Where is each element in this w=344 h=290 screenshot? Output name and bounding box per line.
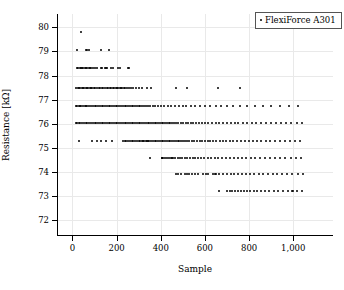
x-axis-tick [161,236,162,241]
y-axis-tick-label: 75 [38,143,49,153]
legend-label: FlexiForce A301 [265,15,336,25]
x-axis-tick [72,236,73,241]
x-axis-label: Sample [178,264,212,274]
plot-area: 727374757677787980 02004006008001,000 [57,14,333,236]
y-axis-tick-label: 77 [38,95,49,105]
y-axis-tick-label: 79 [38,46,49,56]
x-axis-tick-label: 400 [153,243,169,253]
x-axis-tick-label: 200 [108,243,124,253]
x-axis-tick [117,236,118,241]
y-axis-tick-label: 72 [38,215,49,225]
y-axis-tick [52,220,57,221]
legend-marker-icon [260,19,262,21]
x-axis-tick-label: 800 [241,243,257,253]
y-axis-tick [52,148,57,149]
y-axis-tick-label: 80 [38,22,49,32]
y-axis-tick-label: 78 [38,71,49,81]
y-axis-tick-label: 74 [38,167,49,177]
legend: FlexiForce A301 [255,12,342,29]
y-axis-tick [52,100,57,101]
y-axis-tick [52,27,57,28]
plot-frame [57,14,333,236]
y-axis-tick [52,124,57,125]
y-axis-tick-label: 73 [38,191,49,201]
y-axis-tick [52,76,57,77]
x-axis-tick-label: 0 [70,243,75,253]
y-axis-label: Resistance [kΩ] [1,89,11,161]
y-axis-tick [52,172,57,173]
y-axis-tick [52,196,57,197]
x-axis-tick-label: 1,000 [281,243,305,253]
x-axis-tick [249,236,250,241]
y-axis-tick-label: 76 [38,119,49,129]
scatter-chart-figure: 727374757677787980 02004006008001,000 Re… [0,0,344,290]
x-axis-tick-label: 600 [197,243,213,253]
x-axis-tick [205,236,206,241]
y-axis-tick [52,51,57,52]
x-axis-tick [293,236,294,241]
